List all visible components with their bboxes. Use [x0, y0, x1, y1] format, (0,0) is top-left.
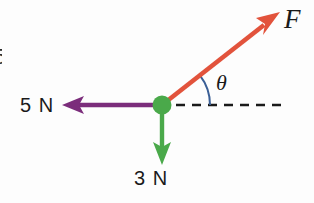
force-diagram: F θ 5 N 3 N 5: [0, 0, 314, 203]
vector-f-arrowhead: [256, 12, 280, 35]
angle-label-theta: θ: [216, 72, 227, 94]
vector-label-3n: 3 N: [134, 168, 168, 188]
vector-f-shaft: [162, 25, 264, 105]
vector-label-f: F: [284, 6, 301, 33]
origin-point: [153, 96, 172, 115]
theta-arc: [200, 75, 210, 105]
vector-label-5n: 5 N: [20, 95, 54, 115]
vector-5n-purple: [62, 96, 163, 114]
cropped-edge-character: 5: [0, 44, 2, 72]
